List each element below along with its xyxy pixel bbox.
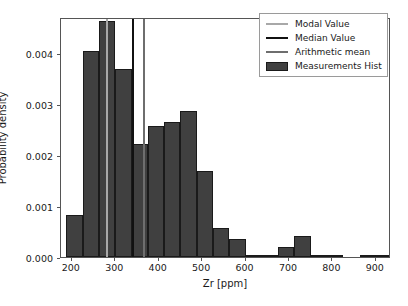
- vline-arithmetic-mean: [143, 19, 145, 257]
- x-tick-mark: [245, 258, 246, 261]
- legend-swatch: [264, 62, 290, 71]
- legend-line-icon: [266, 37, 288, 39]
- x-tick-mark: [288, 258, 289, 261]
- vline-modal-value: [106, 19, 108, 257]
- y-tick-label: 0.004: [26, 48, 53, 59]
- legend-label: Modal Value: [295, 19, 350, 29]
- x-tick-label: 500: [192, 262, 210, 273]
- x-tick-mark: [158, 258, 159, 261]
- y-tick-mark: [57, 156, 60, 157]
- y-tick-mark: [57, 207, 60, 208]
- x-tick-mark: [201, 258, 202, 261]
- y-tick-label: 0.003: [26, 99, 53, 110]
- legend-row: Median Value: [264, 31, 382, 45]
- y-tick-mark: [57, 54, 60, 55]
- x-tick-label: 600: [235, 262, 253, 273]
- vline-median-value: [132, 19, 134, 257]
- x-axis-label: Zr [ppm]: [60, 278, 390, 289]
- y-tick-mark: [57, 258, 60, 259]
- y-tick-label: 0.000: [26, 253, 53, 264]
- legend-swatch: [264, 23, 290, 25]
- legend-label: Measurements Hist: [295, 61, 382, 71]
- legend-swatch: [264, 51, 290, 53]
- histogram-figure: 200300400500600700800900 0.0000.0010.002…: [0, 0, 408, 306]
- legend-label: Median Value: [295, 33, 355, 43]
- x-tick-mark: [71, 258, 72, 261]
- y-tick-label: 0.001: [26, 201, 53, 212]
- x-tick-mark: [375, 258, 376, 261]
- x-tick-label: 400: [149, 262, 167, 273]
- legend-line-icon: [266, 51, 288, 53]
- legend-line-icon: [266, 23, 288, 25]
- x-tick-label: 800: [322, 262, 340, 273]
- x-tick-mark: [331, 258, 332, 261]
- legend-row: Arithmetic mean: [264, 45, 382, 59]
- y-tick-label: 0.002: [26, 150, 53, 161]
- x-tick-label: 300: [105, 262, 123, 273]
- x-tick-label: 900: [366, 262, 384, 273]
- legend-swatch: [264, 37, 290, 39]
- chart-legend: Modal ValueMedian ValueArithmetic meanMe…: [259, 13, 388, 77]
- x-tick-label: 700: [279, 262, 297, 273]
- x-tick-label: 200: [62, 262, 80, 273]
- x-tick-mark: [114, 258, 115, 261]
- legend-row: Modal Value: [264, 17, 382, 31]
- y-tick-mark: [57, 105, 60, 106]
- legend-label: Arithmetic mean: [295, 47, 370, 57]
- legend-row: Measurements Hist: [264, 59, 382, 73]
- y-axis-label: Probability density: [0, 68, 8, 208]
- legend-patch-icon: [266, 62, 288, 71]
